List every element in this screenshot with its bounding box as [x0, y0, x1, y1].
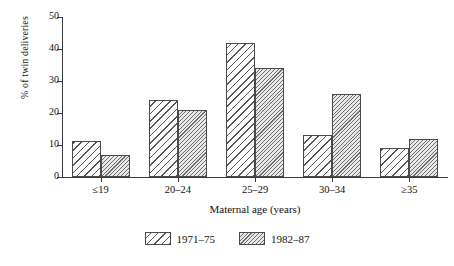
bar-group — [294, 17, 371, 177]
bar-group — [216, 17, 293, 177]
bar-group — [62, 17, 139, 177]
y-tick-label: 50 — [49, 10, 59, 22]
y-axis-title: % of twin deliveries — [19, 0, 30, 138]
bar — [149, 100, 178, 177]
twin-deliveries-bar-chart: % of twin deliveries 01020304050 ≤1920–2… — [0, 0, 454, 266]
cut-off-caption — [14, 256, 16, 264]
bar — [178, 110, 207, 177]
legend-label: 1982–87 — [271, 233, 310, 245]
chart-legend: 1971–751982–87 — [0, 232, 454, 245]
x-tick-mark — [332, 177, 333, 182]
bar — [409, 139, 438, 177]
x-tick-label: 30–34 — [319, 184, 345, 195]
bar — [332, 94, 361, 177]
plot-area: 01020304050 — [62, 17, 448, 177]
y-tick-label: 10 — [49, 138, 59, 150]
bar — [255, 68, 284, 177]
x-tick-label: 25–29 — [242, 184, 268, 195]
x-tick-mark — [178, 177, 179, 182]
y-tick-label: 0 — [54, 170, 59, 182]
legend-swatch-fine-diagonal-hatch — [239, 232, 265, 245]
bar — [380, 148, 409, 177]
bar — [226, 43, 255, 177]
y-tick-label: 20 — [49, 106, 59, 118]
x-axis-title: Maternal age (years) — [62, 203, 448, 215]
bar — [101, 155, 130, 177]
y-tick-label: 40 — [49, 42, 59, 54]
legend-item: 1971–75 — [145, 232, 216, 245]
x-tick-mark — [409, 177, 410, 182]
x-tick-label: 20–24 — [165, 184, 191, 195]
legend-label: 1971–75 — [177, 233, 216, 245]
bar — [303, 135, 332, 177]
bar-group — [371, 17, 448, 177]
bar-group — [139, 17, 216, 177]
x-tick-mark — [255, 177, 256, 182]
x-axis-tick-labels: ≤1920–2425–2930–34≥35 — [62, 184, 448, 200]
x-tick-mark — [101, 177, 102, 182]
y-tick-label: 30 — [49, 74, 59, 86]
x-tick-label: ≤19 — [92, 184, 108, 195]
bar — [72, 141, 101, 177]
legend-item: 1982–87 — [239, 232, 310, 245]
legend-swatch-coarse-diagonal-hatch — [145, 232, 171, 245]
x-tick-label: ≥35 — [401, 184, 417, 195]
